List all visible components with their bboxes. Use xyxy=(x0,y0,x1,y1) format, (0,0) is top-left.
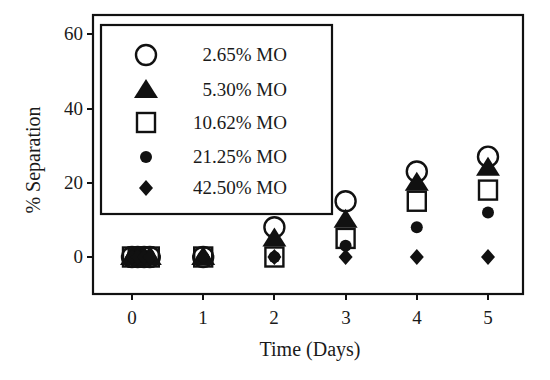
x-tick-label: 4 xyxy=(412,307,422,328)
legend: 2.65% MO 5.30% MO 10.62% MO 21.25% MO 42… xyxy=(101,25,332,214)
data-point-filled-circle xyxy=(411,221,423,233)
legend-label: 10.62% MO xyxy=(193,112,287,133)
data-point-filled-diamond xyxy=(410,249,424,265)
legend-label: 5.30% MO xyxy=(203,79,287,100)
x-tick-label: 3 xyxy=(341,307,351,328)
y-tick-label: 0 xyxy=(74,246,84,267)
data-point-filled-diamond xyxy=(339,249,353,265)
x-axis-label: Time (Days) xyxy=(260,338,361,361)
x-tick-label: 0 xyxy=(127,307,137,328)
data-point-filled-triangle xyxy=(334,209,358,228)
chart-canvas: 60 40 20 0 0 1 2 3 4 5 Time (Days) % Sep… xyxy=(0,0,550,380)
x-tick-label: 5 xyxy=(483,307,493,328)
data-point-open-square xyxy=(479,181,497,200)
legend-label: 42.50% MO xyxy=(193,177,287,198)
legend-label: 2.65% MO xyxy=(203,44,287,65)
y-tick-labels: 60 40 20 0 xyxy=(64,23,83,267)
y-axis-label: % Separation xyxy=(22,106,45,213)
open-square-icon xyxy=(137,113,155,132)
legend-label: 21.25% MO xyxy=(193,146,287,167)
x-tick-labels: 0 1 2 3 4 5 xyxy=(127,307,493,328)
data-point-open-circle xyxy=(336,191,356,211)
open-circle-icon xyxy=(136,45,156,65)
data-point-filled-diamond xyxy=(481,249,495,265)
data-point-open-square xyxy=(408,192,426,211)
y-tick-label: 60 xyxy=(64,23,83,44)
x-tick-label: 1 xyxy=(198,307,208,328)
y-tick-label: 20 xyxy=(64,172,83,193)
x-tick-label: 2 xyxy=(269,307,279,328)
data-point-filled-circle xyxy=(482,206,494,218)
y-tick-label: 40 xyxy=(64,98,83,119)
filled-circle-icon xyxy=(140,151,152,163)
